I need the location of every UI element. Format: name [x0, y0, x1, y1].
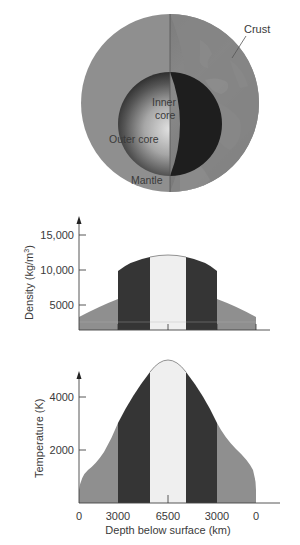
outer-core-label: Outer core [109, 133, 159, 145]
density-tick-10000: 10,000 [40, 264, 74, 276]
mantle-label: Mantle [131, 174, 163, 186]
x-tick-3000-right: 3000 [205, 510, 229, 522]
density-inner-core [150, 255, 186, 330]
density-outer-core-right [186, 257, 217, 330]
density-y-axis-label: Density (kg/m3) [23, 245, 35, 320]
temperature-tick-4000: 4000 [50, 391, 74, 403]
temperature-tick-2000: 2000 [50, 444, 74, 456]
temperature-outer-core-right [186, 372, 217, 503]
x-axis-label: Depth below surface (km) [105, 524, 230, 536]
density-tick-15000: 15,000 [40, 229, 74, 241]
temperature-y-axis-arrow-icon [77, 371, 82, 379]
crust-label: Crust [244, 23, 270, 35]
density-chart: 15,000 10,000 5000 Density (kg/m3) [23, 216, 270, 330]
earth-cutaway-globe: Crust Inner core Outer core Mantle [81, 14, 270, 194]
temperature-y-axis-label: Temperature (K) [33, 399, 45, 478]
temperature-outer-core-left [118, 372, 150, 503]
x-tick-0-right: 0 [253, 510, 259, 522]
temperature-inner-core [150, 360, 186, 503]
inner-core-label-line2: core [155, 109, 176, 121]
x-tick-6500-center: 6500 [156, 510, 180, 522]
density-mantle-right [217, 299, 256, 330]
temperature-chart: 4000 2000 0 3000 6500 3000 0 Depth below… [33, 360, 280, 536]
density-y-axis-arrow-icon [77, 216, 82, 224]
temperature-mantle-left [79, 423, 118, 503]
earth-structure-figure: Crust Inner core Outer core Mantle 15,00… [0, 0, 300, 545]
inner-core-label-line1: Inner [152, 96, 176, 108]
x-tick-3000-left: 3000 [106, 510, 130, 522]
density-mantle-left [79, 299, 118, 330]
density-outer-core-left [118, 257, 150, 330]
x-tick-0-left: 0 [76, 510, 82, 522]
density-tick-5000: 5000 [50, 299, 74, 311]
temperature-mantle-right [217, 423, 256, 503]
